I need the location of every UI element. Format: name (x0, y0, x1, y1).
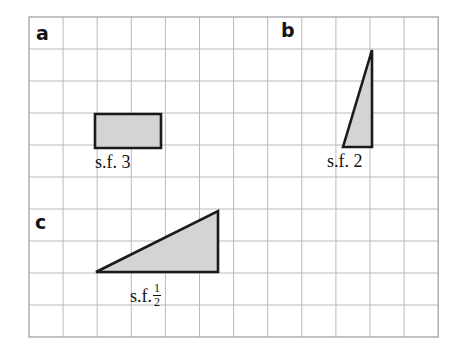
sf-value-a: 3 (122, 152, 131, 172)
part-label-a: a (36, 24, 49, 43)
part-label-b: b (281, 21, 294, 40)
grid-lines (29, 17, 438, 337)
sf-prefix-c: s.f. (130, 286, 152, 306)
fraction-one-half: 12 (153, 282, 161, 308)
scale-factor-label-c: s.f.12 (130, 282, 161, 308)
grid-and-shapes-canvas (0, 0, 454, 355)
fraction-numerator: 1 (153, 282, 161, 296)
part-label-c: c (35, 213, 46, 232)
scale-factor-label-a: s.f. 3 (95, 153, 131, 171)
worksheet-figure: a s.f. 3 b s.f. 2 c s.f.12 (0, 0, 454, 355)
shape-triangle-b (343, 50, 372, 147)
sf-value-b: 2 (354, 151, 363, 171)
shape-rectangle-a (95, 114, 161, 148)
sf-prefix-b: s.f. (327, 151, 349, 171)
fraction-denominator: 2 (153, 296, 161, 309)
scale-factor-label-b: s.f. 2 (327, 152, 363, 170)
sf-prefix-a: s.f. (95, 152, 117, 172)
